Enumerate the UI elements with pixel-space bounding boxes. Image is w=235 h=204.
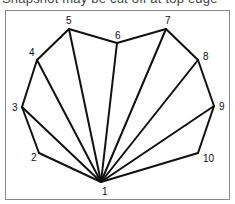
edge-6-7 [117, 29, 166, 43]
edge-1-2 [39, 153, 101, 182]
polygon-fan-diagram: 12345678910 [0, 0, 235, 204]
diagonal-1-5 [69, 29, 101, 182]
diagonal-1-4 [37, 60, 101, 182]
edge-7-8 [166, 29, 198, 60]
vertex-label-7: 7 [165, 15, 171, 26]
vertex-label-3: 3 [12, 102, 18, 113]
edge-9-10 [198, 106, 214, 153]
edge-10-1 [101, 153, 198, 182]
edge-8-9 [198, 60, 214, 106]
diagonal-1-8 [101, 60, 198, 182]
vertex-label-5: 5 [66, 15, 72, 26]
vertex-label-10: 10 [203, 153, 215, 164]
vertex-label-8: 8 [203, 51, 209, 62]
edge-5-6 [69, 29, 117, 43]
edge-3-4 [22, 60, 37, 107]
edge-4-5 [37, 29, 69, 60]
vertex-label-9: 9 [219, 101, 225, 112]
diagonal-1-3 [22, 107, 101, 182]
vertex-label-2: 2 [31, 152, 37, 163]
vertex-label-6: 6 [115, 30, 121, 41]
vertex-label-1: 1 [102, 186, 108, 197]
vertex-label-4: 4 [29, 47, 35, 58]
